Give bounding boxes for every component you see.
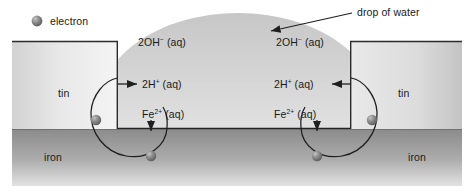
- iron-layer: [12, 128, 462, 186]
- electron-legend-icon: [32, 16, 43, 27]
- species-hydroxide-left: 2OH− (aq): [138, 37, 186, 48]
- iron-label-right: iron: [408, 152, 426, 163]
- species-hydroxide-right: 2OH− (aq): [276, 37, 324, 48]
- tin-label-left: tin: [58, 88, 69, 99]
- tin-layer-left: [12, 41, 118, 129]
- species-proton-right: 2H+ (aq): [274, 79, 314, 90]
- electron-sphere: [146, 151, 156, 161]
- electron-sphere: [91, 115, 101, 125]
- iron-label-left: iron: [44, 152, 62, 163]
- tin-label-right: tin: [398, 88, 409, 99]
- electron-sphere: [312, 151, 322, 161]
- corrosion-diagram: electron drop of water tin tin iron iron…: [0, 0, 474, 193]
- species-iron-ion-left: Fe2+ (aq): [142, 109, 184, 120]
- electron-legend-label: electron: [50, 16, 88, 27]
- drop-of-water-label: drop of water: [357, 7, 420, 18]
- tin-layer-right: [350, 41, 462, 129]
- species-proton-left: 2H+ (aq): [142, 79, 182, 90]
- species-iron-ion-right: Fe2+ (aq): [274, 109, 316, 120]
- electron-sphere: [367, 115, 377, 125]
- water-drop: [88, 13, 388, 130]
